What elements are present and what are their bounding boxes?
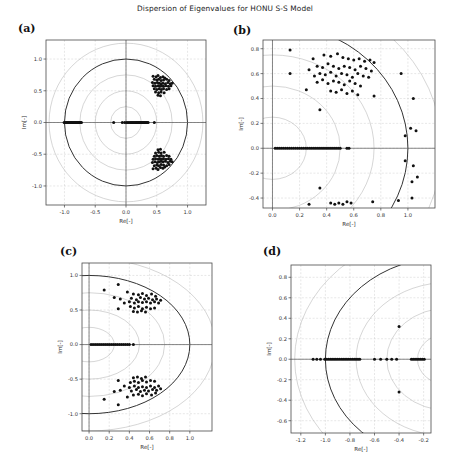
svg-text:-0.2: -0.2 bbox=[249, 170, 259, 176]
svg-text:-0.5: -0.5 bbox=[90, 209, 100, 215]
svg-text:1.0: 1.0 bbox=[183, 209, 191, 215]
svg-text:-0.5: -0.5 bbox=[32, 151, 42, 157]
svg-text:0.0: 0.0 bbox=[251, 145, 259, 151]
svg-text:-1.2: -1.2 bbox=[296, 437, 306, 443]
panel-c: (c) 0.00.20.40.60.81.0-1.0-0.50.00.51.0R… bbox=[40, 243, 250, 467]
svg-text:0.5: 0.5 bbox=[70, 307, 78, 313]
svg-text:0.8: 0.8 bbox=[279, 274, 287, 280]
svg-text:0.0: 0.0 bbox=[122, 209, 130, 215]
figure-title: Dispersion of Eigenvalues for HONU S-S M… bbox=[0, 4, 450, 13]
svg-text:-0.2: -0.2 bbox=[419, 437, 429, 443]
svg-text:Re[-]: Re[-] bbox=[354, 446, 367, 452]
svg-text:-0.5: -0.5 bbox=[68, 376, 78, 382]
svg-text:0.0: 0.0 bbox=[70, 341, 78, 347]
svg-text:0.6: 0.6 bbox=[279, 295, 287, 301]
svg-text:0.4: 0.4 bbox=[125, 435, 134, 441]
svg-text:1.0: 1.0 bbox=[186, 435, 194, 441]
svg-text:Re[-]: Re[-] bbox=[119, 218, 132, 224]
svg-text:0.6: 0.6 bbox=[251, 71, 259, 77]
svg-text:0.2: 0.2 bbox=[105, 435, 113, 441]
svg-text:0.0: 0.0 bbox=[34, 119, 42, 125]
svg-text:Im[-]: Im[-] bbox=[238, 117, 244, 130]
panel-a-plot: -1.0-0.50.00.51.0-1.0-0.50.00.51.0Re[-]I… bbox=[0, 18, 225, 240]
svg-text:0.8: 0.8 bbox=[166, 435, 174, 441]
svg-text:-0.8: -0.8 bbox=[345, 437, 355, 443]
svg-text:0.0: 0.0 bbox=[85, 435, 93, 441]
svg-text:0.8: 0.8 bbox=[377, 212, 385, 218]
svg-text:Im[-]: Im[-] bbox=[21, 116, 27, 129]
svg-text:Re[-]: Re[-] bbox=[342, 221, 355, 227]
figure-root: Dispersion of Eigenvalues for HONU S-S M… bbox=[0, 0, 450, 467]
svg-text:-0.6: -0.6 bbox=[369, 437, 379, 443]
svg-text:0.5: 0.5 bbox=[34, 88, 42, 94]
svg-text:0.2: 0.2 bbox=[279, 336, 287, 342]
svg-text:1.0: 1.0 bbox=[70, 272, 78, 278]
svg-text:0.4: 0.4 bbox=[279, 315, 288, 321]
svg-text:-0.2: -0.2 bbox=[277, 377, 287, 383]
svg-text:0.4: 0.4 bbox=[323, 212, 332, 218]
svg-text:-0.4: -0.4 bbox=[277, 397, 288, 403]
svg-text:-0.6: -0.6 bbox=[277, 418, 287, 424]
panel-b: (b) 0.00.20.40.60.81.0-0.4-0.20.00.20.40… bbox=[225, 18, 450, 240]
svg-text:-1.0: -1.0 bbox=[32, 183, 42, 189]
svg-text:0.8: 0.8 bbox=[251, 46, 259, 52]
svg-text:Re[-]: Re[-] bbox=[140, 444, 153, 450]
svg-text:-0.4: -0.4 bbox=[394, 437, 405, 443]
panel-d: (d) -1.2-1.0-0.8-0.6-0.4-0.2-0.6-0.4-0.2… bbox=[245, 243, 450, 467]
svg-text:Im[-]: Im[-] bbox=[266, 342, 272, 355]
svg-text:1.0: 1.0 bbox=[34, 56, 42, 62]
svg-text:0.0: 0.0 bbox=[279, 356, 287, 362]
svg-text:0.6: 0.6 bbox=[350, 212, 358, 218]
panel-d-plot: -1.2-1.0-0.8-0.6-0.4-0.2-0.6-0.4-0.20.00… bbox=[245, 243, 450, 467]
svg-text:-0.4: -0.4 bbox=[249, 195, 260, 201]
panel-b-plot: 0.00.20.40.60.81.0-0.4-0.20.00.20.40.60.… bbox=[225, 18, 450, 240]
svg-text:1.0: 1.0 bbox=[404, 212, 412, 218]
svg-text:0.2: 0.2 bbox=[251, 120, 259, 126]
svg-text:0.4: 0.4 bbox=[251, 95, 260, 101]
panel-c-plot: 0.00.20.40.60.81.0-1.0-0.50.00.51.0Re[-]… bbox=[40, 243, 250, 467]
svg-text:Im[-]: Im[-] bbox=[57, 340, 63, 353]
svg-text:0.0: 0.0 bbox=[268, 212, 276, 218]
svg-text:0.2: 0.2 bbox=[295, 212, 303, 218]
svg-text:0.6: 0.6 bbox=[145, 435, 153, 441]
svg-text:-1.0: -1.0 bbox=[68, 411, 78, 417]
svg-text:-1.0: -1.0 bbox=[320, 437, 330, 443]
panel-a: (a) -1.0-0.50.00.51.0-1.0-0.50.00.51.0Re… bbox=[0, 18, 225, 240]
svg-text:-1.0: -1.0 bbox=[59, 209, 69, 215]
svg-text:0.5: 0.5 bbox=[153, 209, 161, 215]
